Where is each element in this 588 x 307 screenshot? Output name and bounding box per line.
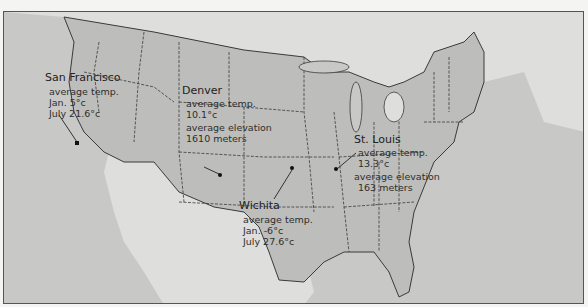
info-line: 1610 meters xyxy=(186,133,272,144)
city-name: St. Louis xyxy=(354,134,440,145)
st-louis-dot xyxy=(334,167,338,171)
lake-huron xyxy=(384,92,404,122)
lake-michigan xyxy=(350,82,362,132)
info-line: 163 meters xyxy=(358,182,440,193)
city-name: Denver xyxy=(182,85,272,96)
info-line: average temp. xyxy=(243,214,313,225)
info-line: Jan. 5°c xyxy=(49,97,121,108)
info-line: average temp. xyxy=(358,147,440,158)
city-name: Wichita xyxy=(239,200,313,211)
us-map xyxy=(4,12,584,304)
info-line: 10.1°c xyxy=(186,109,272,120)
lake-superior xyxy=(299,61,349,73)
info-line: average temp. xyxy=(49,86,121,97)
wichita-dot xyxy=(290,166,294,170)
city-name: San Francisco xyxy=(45,72,121,83)
info-line: Jan. -6°c xyxy=(243,225,313,236)
denver-dot xyxy=(218,173,222,177)
info-line: average temp. xyxy=(186,98,272,109)
info-line: 13.3°c xyxy=(358,158,440,169)
wichita-annotation: Wichita average temp. Jan. -6°c July 27.… xyxy=(239,200,313,247)
san-francisco-annotation: San Francisco average temp. Jan. 5°c Jul… xyxy=(45,72,121,119)
san-francisco-dot xyxy=(75,141,79,145)
info-line: July 21.6°c xyxy=(49,108,121,119)
map-frame: San Francisco average temp. Jan. 5°c Jul… xyxy=(3,11,584,304)
info-line: average elevation xyxy=(354,171,440,182)
info-line: July 27.6°c xyxy=(243,236,313,247)
st-louis-annotation: St. Louis average temp. 13.3°c average e… xyxy=(354,134,440,193)
denver-annotation: Denver average temp. 10.1°c average elev… xyxy=(182,85,272,144)
info-line: average elevation xyxy=(186,122,272,133)
